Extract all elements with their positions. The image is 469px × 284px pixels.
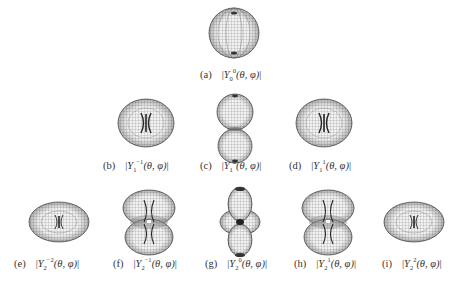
degree-l: 1 [133, 166, 136, 173]
caption-tag: (d) [289, 160, 301, 171]
abs-bar: | [259, 160, 261, 171]
degree-l: 1 [319, 166, 322, 173]
caption-c: (c)|Y10(θ, φ)| [200, 158, 261, 173]
sphere-plot-a [209, 8, 259, 58]
flat-torus-plot-e [29, 202, 89, 242]
args: (θ, φ) [152, 258, 175, 269]
abs-bar: | [265, 258, 267, 269]
degree-l: 2 [324, 264, 327, 271]
degree-l: 0 [230, 75, 233, 82]
caption-a: (a)|Y00(θ, φ)| [200, 67, 261, 82]
degree-l: 2 [235, 264, 238, 271]
args: (θ, φ) [143, 160, 166, 171]
args: (θ, φ) [236, 160, 259, 171]
abs-bar: | [259, 69, 261, 80]
order-m: −1 [145, 256, 152, 263]
args: (θ, φ) [236, 69, 259, 80]
abs-bar: | [440, 258, 442, 269]
caption-tag: (e) [14, 258, 26, 269]
caption-g: (g)|Y20(θ, φ)| [205, 256, 267, 271]
torus-plot-b [118, 99, 174, 147]
abs-bar: | [349, 160, 351, 171]
caption-tag: (f) [113, 258, 124, 269]
dumbbell-plot-c [217, 94, 253, 163]
symbol: Y [224, 160, 230, 171]
args: (θ, φ) [242, 258, 265, 269]
degree-l: 2 [141, 264, 144, 271]
caption-tag: (g) [205, 258, 217, 269]
caption-b: (b)|Y1−1(θ, φ)| [103, 158, 169, 173]
caption-tag: (i) [382, 258, 392, 269]
caption-h: (h)|Y21(θ, φ)| [294, 256, 356, 271]
double-torus-plot-h [302, 190, 354, 255]
abs-bar: | [354, 258, 356, 269]
caption-tag: (h) [294, 258, 306, 269]
flat-torus-plot-i [384, 202, 444, 242]
degree-l: 2 [410, 264, 413, 271]
symbol: Y [224, 69, 230, 80]
caption-tag: (b) [103, 160, 115, 171]
abs-bar: | [167, 160, 169, 171]
symbol: Y [404, 258, 410, 269]
dumbbell-ring-plot-g [220, 187, 260, 257]
caption-tag: (c) [200, 160, 212, 171]
args: (θ, φ) [326, 160, 349, 171]
symbol: Y [38, 258, 44, 269]
order-m: −2 [47, 256, 54, 263]
caption-f: (f)|Y2−1(θ, φ)| [113, 256, 177, 271]
torus-plot-d [296, 99, 352, 147]
caption-tag: (a) [200, 69, 212, 80]
harmonics-figure [0, 0, 469, 284]
caption-d: (d)|Y11(θ, φ)| [289, 158, 351, 173]
args: (θ, φ) [54, 258, 77, 269]
double-torus-plot-f [123, 190, 175, 255]
args: (θ, φ) [331, 258, 354, 269]
caption-e: (e)|Y2−2(θ, φ)| [14, 256, 79, 271]
degree-l: 1 [230, 166, 233, 173]
abs-bar: | [77, 258, 79, 269]
abs-bar: | [175, 258, 177, 269]
caption-i: (i)|Y22(θ, φ)| [382, 256, 442, 271]
degree-l: 2 [44, 264, 47, 271]
args: (θ, φ) [416, 258, 439, 269]
